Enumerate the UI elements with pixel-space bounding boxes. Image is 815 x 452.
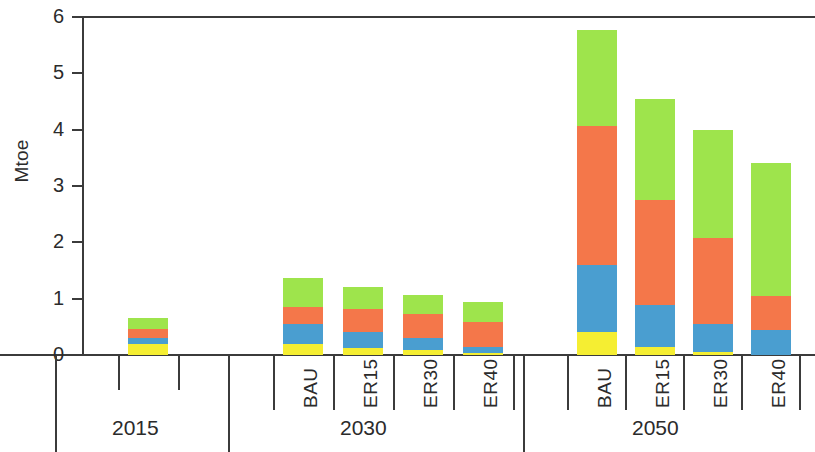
x-tick-mark — [513, 356, 515, 410]
bar-segment-orange-segment — [635, 200, 675, 305]
group-label-2015: 2015 — [112, 416, 159, 440]
group-label-2050: 2050 — [632, 416, 679, 440]
scenario-label-2050-bau: BAU — [594, 338, 616, 408]
bar-segment-orange-segment — [128, 329, 168, 337]
y-tick-mark — [72, 185, 83, 187]
scenario-label-2030-er15: ER15 — [360, 338, 382, 408]
x-tick-mark — [625, 356, 627, 410]
bar-segment-blue-segment — [577, 265, 617, 331]
x-tick-mark — [741, 356, 743, 410]
x-tick-mark — [273, 356, 275, 410]
scenario-label-2030-er40: ER40 — [480, 338, 502, 408]
scenario-label-2050-er15: ER15 — [652, 338, 674, 408]
group-separator — [523, 356, 525, 452]
y-tick-label: 0 — [36, 344, 64, 364]
y-tick-label: 3 — [36, 175, 64, 195]
plot-top-rule — [82, 16, 815, 18]
bar-segment-yellow-segment — [128, 344, 168, 355]
group-label-2030: 2030 — [340, 416, 387, 440]
group-separator — [55, 356, 57, 452]
x-tick-mark — [683, 356, 685, 410]
bar-segment-orange-segment — [343, 309, 383, 332]
stacked-bar-chart: Mtoe 0123456 BAUER15ER30ER40BAUER15ER30E… — [0, 0, 815, 452]
y-axis-label: Mtoe — [11, 101, 33, 221]
bar-segment-green-segment — [403, 295, 443, 315]
bar-2050-er15 — [635, 99, 675, 355]
y-tick-mark — [72, 16, 83, 18]
bar-segment-orange-segment — [283, 307, 323, 324]
x-tick-mark — [118, 356, 120, 390]
bar-segment-orange-segment — [403, 314, 443, 338]
y-tick-mark — [72, 72, 83, 74]
scenario-label-2050-er40: ER40 — [768, 338, 790, 408]
bar-segment-green-segment — [343, 287, 383, 310]
scenario-label-2050-er30: ER30 — [710, 338, 732, 408]
x-tick-mark — [453, 356, 455, 410]
y-tick-label: 5 — [36, 62, 64, 82]
bar-segment-green-segment — [577, 30, 617, 126]
bar-segment-green-segment — [635, 99, 675, 200]
bar-segment-orange-segment — [751, 296, 791, 330]
bar-segment-green-segment — [751, 163, 791, 295]
bar-2015 — [128, 318, 168, 355]
x-tick-mark — [799, 356, 801, 410]
x-tick-mark — [393, 356, 395, 410]
bar-segment-orange-segment — [693, 238, 733, 324]
scenario-label-2030-er30: ER30 — [420, 338, 442, 408]
bar-2050-er40 — [751, 163, 791, 355]
bar-segment-green-segment — [693, 130, 733, 238]
y-tick-label: 1 — [36, 288, 64, 308]
bar-segment-green-segment — [128, 318, 168, 329]
scenario-label-2030-bau: BAU — [300, 338, 322, 408]
bar-2050-bau — [577, 30, 617, 355]
y-tick-label: 4 — [36, 119, 64, 139]
y-tick-mark — [72, 129, 83, 131]
bar-2050-er30 — [693, 130, 733, 355]
y-tick-mark — [72, 241, 83, 243]
bar-segment-green-segment — [463, 302, 503, 322]
y-tick-mark — [72, 354, 83, 356]
group-separator — [228, 356, 230, 452]
bar-segment-green-segment — [283, 278, 323, 307]
x-tick-mark — [333, 356, 335, 410]
bar-segment-orange-segment — [577, 126, 617, 265]
y-tick-mark — [72, 298, 83, 300]
x-tick-mark — [567, 356, 569, 410]
x-tick-mark — [178, 356, 180, 390]
y-tick-label: 2 — [36, 231, 64, 251]
y-tick-label: 6 — [36, 6, 64, 26]
